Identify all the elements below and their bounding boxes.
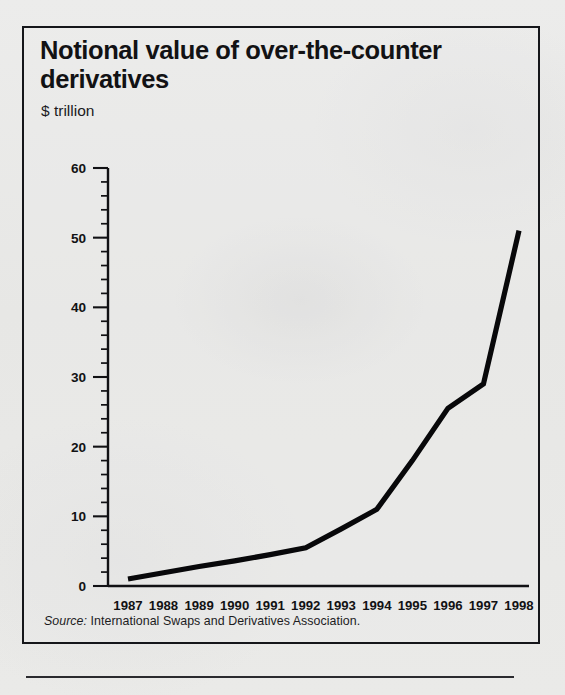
data-series [128,231,519,579]
x-tick-label: 1995 [398,598,427,613]
x-tick-label: 1998 [504,598,533,613]
line-chart-svg: 0102030405060 19871988198919901991199219… [24,28,538,642]
y-tick-label: 60 [71,161,86,176]
x-tick-label: 1989 [184,598,213,613]
source-label: Source: [44,614,87,628]
x-tick-label: 1991 [256,598,285,613]
x-tick-label: 1992 [291,598,320,613]
source-note: Source: International Swaps and Derivati… [44,614,360,628]
x-tick-label: 1993 [327,598,356,613]
y-tick-label: 20 [71,440,86,455]
x-tick-label: 1987 [113,598,142,613]
x-axis: 1987198819891990199119921993199419951996… [108,586,534,613]
source-value: International Swaps and Derivatives Asso… [87,614,360,628]
y-tick-label: 10 [71,509,86,524]
chart-frame: Notional value of over-the-counter deriv… [22,26,540,644]
y-tick-label: 0 [78,579,86,594]
x-tick-label: 1994 [362,598,392,613]
y-tick-label: 50 [71,231,86,246]
footer-divider [26,676,514,678]
x-tick-label: 1988 [149,598,178,613]
y-tick-label: 40 [71,300,86,315]
data-line-series [128,231,519,579]
x-tick-label: 1990 [220,598,249,613]
x-tick-label: 1996 [433,598,462,613]
x-tick-label: 1997 [469,598,498,613]
y-axis: 0102030405060 [71,161,108,594]
y-tick-label: 30 [71,370,86,385]
plot-area: 0102030405060 19871988198919901991199219… [24,28,538,642]
